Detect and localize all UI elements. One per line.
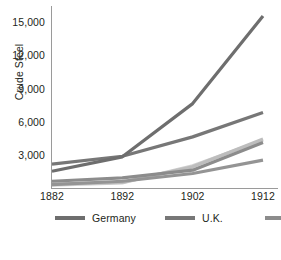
legend-swatch — [265, 216, 281, 220]
chart-figure: Crude Steel 3,0006,0009,00012,00015,000 … — [0, 0, 281, 260]
chart-legend: GermanyU.K.FranceAustriaRussiaBelgium — [55, 211, 265, 255]
line-chart-svg — [51, 6, 278, 189]
y-axis-tick-label: 12,000 — [0, 50, 45, 61]
y-axis-tick-label: 15,000 — [0, 17, 45, 28]
legend-label: Germany — [92, 213, 136, 224]
x-axis-tick-label: 1912 — [240, 190, 281, 203]
legend-swatch — [165, 216, 195, 220]
legend-swatch — [55, 216, 85, 220]
y-axis-tick-label: 9,000 — [0, 84, 45, 95]
y-axis-tick-label: 3,000 — [0, 150, 45, 161]
x-axis-tick-label: 1902 — [170, 190, 216, 203]
x-axis-tick-label: 1892 — [99, 190, 145, 203]
series-layer — [52, 16, 263, 185]
plot-area — [51, 6, 278, 189]
legend-label: U.K. — [202, 213, 223, 224]
legend-item: Germany — [55, 211, 165, 226]
y-axis-tick-label: 6,000 — [0, 117, 45, 128]
x-axis-tick-label: 1882 — [29, 190, 75, 203]
legend-item: France — [265, 211, 281, 226]
y-axis-tick-labels: 3,0006,0009,00012,00015,000 — [0, 0, 49, 190]
x-axis-tick-labels: 1882189219021912 — [0, 190, 281, 206]
legend-item: U.K. — [165, 211, 265, 226]
